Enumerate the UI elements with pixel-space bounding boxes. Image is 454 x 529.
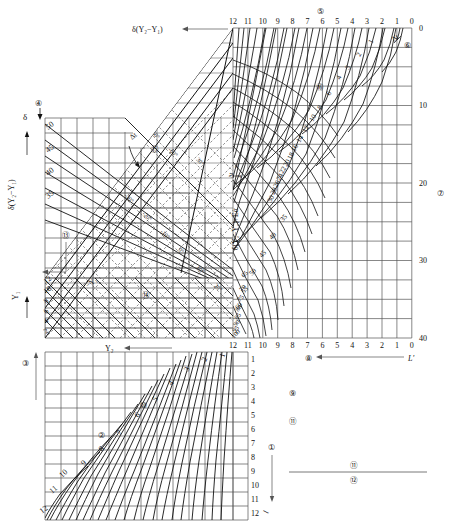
tick-label: 11 (244, 17, 252, 26)
top-left-formula: δ(Y₂−Y₁) (132, 25, 163, 34)
minus-y1-label: −Y₁ (84, 275, 100, 290)
axis-top-marker: ⑤ (317, 7, 324, 16)
tick-label: 6 (320, 17, 324, 26)
tick-label: 0 (410, 17, 414, 26)
marker-3: ③ (22, 359, 29, 368)
delta-t-marker-left: Δt (128, 130, 140, 168)
ur-curve-label: 1 (367, 38, 376, 45)
marker-12-line-below: ⑫ (350, 476, 358, 485)
tick-label: 45 (44, 143, 56, 155)
curve-label: 2 (199, 356, 209, 363)
tick-label: 5 (335, 341, 339, 350)
nomograph-svg: 1 2 3 4 6 8 10 12 14 16 18 20 22 24 26 2… (0, 0, 454, 529)
tick-label: 2 (380, 341, 384, 350)
axis-right: 0 10 20 30 40 ⑦ ⑥ (404, 24, 444, 343)
tick-label: 12 (251, 509, 259, 518)
marker-9: ⑨ (289, 389, 296, 398)
ur-curve-label: 50 (248, 266, 259, 277)
curve-label: 1 (217, 352, 227, 359)
ur-formula-annotation: δ(Y₂−Y₁)+Eα Δt 2 a₁ (228, 163, 242, 250)
axis-bottom-ticklabels: 12 11 10 9 8 7 6 5 4 3 2 1 0 (229, 341, 414, 350)
tick-label: 1 (251, 355, 255, 364)
lprime-label: L' (407, 354, 414, 363)
formula-numerator: Δt (228, 172, 234, 178)
marker-14: ⑭ (142, 291, 150, 300)
axis-title: δ(Y₂−Y₁) (7, 179, 16, 210)
degree-label: 0° (177, 246, 185, 254)
tick-label: 6 (320, 341, 324, 350)
tick-label: 3 (365, 17, 369, 26)
tick-label: 10 (251, 481, 259, 490)
bl-curve-labels: 1 2 3 4 5 6 7 8 9 10 11 12 (38, 352, 228, 516)
tick-label: 4 (350, 17, 354, 26)
marker-3-group: ③ (22, 352, 38, 400)
center-grid (45, 43, 233, 338)
tick-label: 11 (251, 495, 259, 504)
formula-tail: a₁ (233, 163, 239, 168)
top-formula-group: δ(Y₂−Y₁) (132, 25, 228, 34)
curve-label: 11 (48, 484, 60, 496)
ur-curve-label: 45 (258, 248, 269, 259)
degree-label: -20° (141, 210, 153, 222)
bottom-right-column: 1 2 3 4 5 6 7 8 9 10 11 12 ① l (233, 352, 275, 520)
tick-label: 10 (419, 101, 427, 110)
brc-gridlines (233, 352, 248, 520)
tick-label: 0 (419, 24, 423, 33)
lprime-arrow-group: ⑧ L' (305, 354, 414, 363)
brc-tick-labels: 1 2 3 4 5 6 7 8 9 10 11 12 (251, 355, 259, 518)
tick-label: 7 (306, 17, 310, 26)
ur-contour-curves (233, 28, 403, 252)
tick-label: 6 (251, 425, 255, 434)
tick-label: 1 (395, 17, 399, 26)
nomograph-figure: 1 2 3 4 6 8 10 12 14 16 18 20 22 24 26 2… (0, 0, 454, 529)
tick-label: 40 (419, 334, 427, 343)
ur-curve-label: 40 (268, 230, 279, 241)
tick-label: 3 (365, 341, 369, 350)
quadrant-bottom-left: 1 2 3 4 5 6 7 8 9 10 11 12 ② ⑩ Y₂ ③ (22, 344, 233, 520)
tick-label: 7 (306, 341, 310, 350)
degree-label: -50° (149, 128, 161, 140)
ur-curve-label: 4 (335, 74, 344, 81)
tick-label: 9 (251, 467, 255, 476)
tick-label: 12 (229, 341, 237, 350)
marker-11: ⑪ (289, 417, 297, 426)
tick-label: 50 (44, 120, 56, 132)
tick-label: 30 (419, 256, 427, 265)
axis-left-upper-title: δ(Y₂−Y₁) (7, 131, 29, 210)
marker-16: ⑯ (316, 83, 324, 92)
formula-denominator: 2 (236, 175, 242, 178)
marker-1-group: ① l (261, 443, 275, 515)
ur-curve-label: 6 (325, 90, 334, 97)
degree-label: 10° (195, 264, 206, 275)
delta-t-label: Δt (128, 130, 140, 142)
marker-15: ⑮ (151, 145, 159, 154)
marker-11-line-above: ⑪ (350, 461, 358, 470)
axis-right-ticklabels: 0 10 20 30 40 (419, 24, 427, 343)
axis-right-marker: ⑦ (437, 189, 444, 198)
bottom-markers: ⑨ ⑪ ⑪ ⑫ (289, 389, 427, 485)
tick-label: 20 (419, 179, 427, 188)
curve-label: 9 (79, 458, 88, 467)
delta-symbol: δ (23, 112, 27, 122)
curve-label: 12 (38, 504, 50, 516)
bl-gridlines (45, 352, 233, 520)
tick-label: 9 (276, 341, 280, 350)
axis-top-ticklabels: 12 11 10 9 8 7 6 5 4 3 2 1 0 (229, 17, 414, 26)
marker-13: ⑬ (62, 231, 70, 240)
tick-label: 7 (251, 439, 255, 448)
marker-6-upper: ⑥ (404, 41, 411, 50)
ur-curve-label: 3 (344, 64, 353, 71)
ur-curve-label: 2 (355, 51, 364, 58)
tick-label: 10 (259, 341, 267, 350)
y2-label: Y₂ (105, 344, 114, 353)
ur-curve-label: 14 (295, 134, 306, 144)
tick-label: 8 (291, 17, 295, 26)
tick-label: 2 (380, 17, 384, 26)
axis-left-lower-title: Y₁ (11, 291, 29, 318)
tick-label: 9 (276, 17, 280, 26)
axis-title: Y₁ (11, 291, 20, 300)
marker-4: ④ (35, 99, 42, 108)
axis-bottom: 12 11 10 9 8 7 6 5 4 3 2 1 0 ⑧ L' (229, 341, 414, 363)
tick-label: 0 (410, 341, 414, 350)
tick-label: 5 (335, 17, 339, 26)
